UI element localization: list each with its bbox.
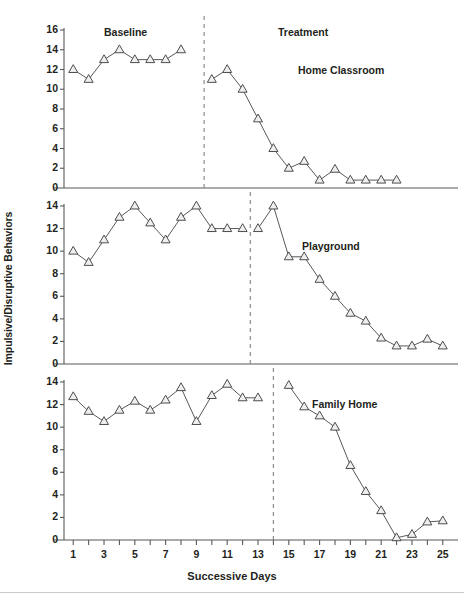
data-point-marker xyxy=(69,246,78,254)
panel-family-home xyxy=(0,0,464,602)
data-point-marker xyxy=(315,411,324,419)
panel-playground xyxy=(0,0,464,602)
x-tick-label: 5 xyxy=(123,548,147,560)
data-point-marker xyxy=(223,224,232,232)
data-point-marker xyxy=(438,341,447,349)
y-tick-label: 4 xyxy=(24,312,58,324)
data-point-marker xyxy=(115,45,124,53)
y-tick-label: 8 xyxy=(24,267,58,279)
x-tick-label: 11 xyxy=(215,548,239,560)
panel-label-family-home: Family Home xyxy=(312,398,377,410)
y-tick-label: 4 xyxy=(24,142,58,154)
data-point-marker xyxy=(438,516,447,524)
x-tick-label: 3 xyxy=(92,548,116,560)
bottom-rule xyxy=(0,592,464,593)
data-point-marker xyxy=(146,55,155,63)
data-point-marker xyxy=(161,55,170,63)
x-tick-label: 15 xyxy=(277,548,301,560)
data-point-marker xyxy=(254,393,263,401)
series-line-baseline xyxy=(73,50,181,80)
data-point-marker xyxy=(100,417,109,425)
data-point-marker xyxy=(423,334,432,342)
data-point-marker xyxy=(207,75,216,83)
y-tick-label: 12 xyxy=(24,63,58,75)
data-point-marker xyxy=(300,402,309,410)
figure-root: Impulsive/Disruptive Behaviors Successiv… xyxy=(0,0,464,602)
x-tick-label: 9 xyxy=(184,548,208,560)
data-point-marker xyxy=(377,506,386,514)
data-point-marker xyxy=(330,164,339,172)
y-tick-label: 12 xyxy=(24,222,58,234)
data-point-marker xyxy=(238,84,247,92)
data-point-marker xyxy=(361,487,370,495)
data-point-marker xyxy=(177,383,186,391)
data-point-marker xyxy=(115,212,124,220)
panel-label-playground: Playground xyxy=(302,240,360,252)
data-point-marker xyxy=(161,395,170,403)
data-point-marker xyxy=(192,417,201,425)
data-point-marker xyxy=(146,405,155,413)
y-tick-label: 10 xyxy=(24,244,58,256)
data-point-marker xyxy=(130,55,139,63)
y-tick-label: 2 xyxy=(24,161,58,173)
data-point-marker xyxy=(346,175,355,183)
data-point-marker xyxy=(284,252,293,260)
data-point-marker xyxy=(130,396,139,404)
x-tick-label: 19 xyxy=(338,548,362,560)
x-tick-label: 7 xyxy=(154,548,178,560)
y-tick-label: 12 xyxy=(24,398,58,410)
data-point-marker xyxy=(223,379,232,387)
data-point-marker xyxy=(284,163,293,171)
phase-label-treatment: Treatment xyxy=(278,26,328,38)
y-tick-label: 6 xyxy=(24,122,58,134)
y-tick-label: 0 xyxy=(24,181,58,193)
y-tick-label: 8 xyxy=(24,443,58,455)
y-tick-label: 2 xyxy=(24,510,58,522)
y-tick-label: 10 xyxy=(24,82,58,94)
y-tick-label: 2 xyxy=(24,334,58,346)
data-point-marker xyxy=(69,392,78,400)
panel-home-classroom xyxy=(0,0,464,602)
data-point-marker xyxy=(84,406,93,414)
data-point-marker xyxy=(84,75,93,83)
data-point-marker xyxy=(254,224,263,232)
y-tick-label: 8 xyxy=(24,102,58,114)
y-tick-label: 0 xyxy=(24,357,58,369)
y-tick-label: 6 xyxy=(24,465,58,477)
series-line-treatment xyxy=(258,206,443,346)
data-point-marker xyxy=(161,235,170,243)
x-tick-label: 23 xyxy=(400,548,424,560)
series-line-baseline xyxy=(73,384,258,421)
data-point-marker xyxy=(377,175,386,183)
series-line-baseline xyxy=(73,206,242,262)
data-point-marker xyxy=(269,201,278,209)
data-point-marker xyxy=(115,405,124,413)
y-tick-label: 4 xyxy=(24,488,58,500)
data-point-marker xyxy=(223,65,232,73)
y-tick-label: 14 xyxy=(24,43,58,55)
x-tick-label: 17 xyxy=(308,548,332,560)
series-line-treatment xyxy=(212,70,397,181)
data-point-marker xyxy=(361,175,370,183)
x-tick-label: 13 xyxy=(246,548,270,560)
data-point-marker xyxy=(254,114,263,122)
x-tick-label: 1 xyxy=(61,548,85,560)
y-axis-title: Impulsive/Disruptive Behaviors xyxy=(2,196,16,381)
data-point-marker xyxy=(392,175,401,183)
data-point-marker xyxy=(315,175,324,183)
x-axis-title: Successive Days xyxy=(0,570,464,582)
data-point-marker xyxy=(392,341,401,349)
y-tick-label: 6 xyxy=(24,289,58,301)
data-point-marker xyxy=(300,156,309,164)
data-point-marker xyxy=(146,218,155,226)
data-point-marker xyxy=(392,533,401,541)
data-point-marker xyxy=(407,530,416,538)
data-point-marker xyxy=(284,381,293,389)
data-point-marker xyxy=(315,275,324,283)
phase-label-baseline: Baseline xyxy=(104,26,147,38)
y-tick-label: 16 xyxy=(24,23,58,35)
x-tick-label: 21 xyxy=(369,548,393,560)
data-point-marker xyxy=(300,252,309,260)
data-point-marker xyxy=(177,45,186,53)
data-point-marker xyxy=(238,393,247,401)
